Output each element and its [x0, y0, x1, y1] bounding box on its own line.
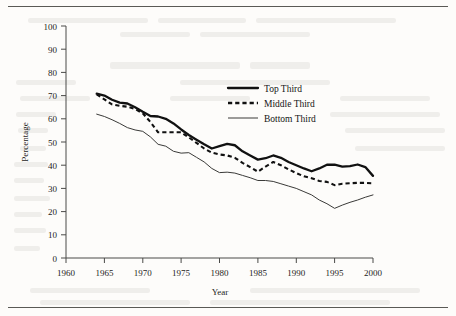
y-axis-ticks: [61, 26, 66, 258]
x-tick-label: 1965: [95, 268, 114, 278]
legend-label-middle-third: Middle Third: [264, 99, 315, 109]
series-line-top-third: [97, 94, 373, 176]
y-tick-label: 80: [48, 68, 58, 78]
y-tick-label: 30: [48, 184, 58, 194]
legend-label-top-third: Top Third: [264, 84, 302, 94]
y-tick-label: 90: [48, 45, 58, 55]
x-axis-ticks: [66, 258, 373, 263]
y-tick-label: 0: [53, 254, 58, 264]
y-tick-label: 40: [48, 161, 58, 171]
y-axis-title: Percentage: [20, 122, 30, 161]
x-tick-label: 1970: [134, 268, 153, 278]
y-axis: 100 90 80 70 60 50 40 30 20 10 0 Percent…: [20, 22, 66, 264]
x-tick-label: 1960: [57, 268, 76, 278]
y-tick-label: 100: [44, 22, 58, 32]
y-tick-label: 60: [48, 114, 58, 124]
series-line-bottom-third: [97, 114, 373, 208]
line-chart: 100 90 80 70 60 50 40 30 20 10 0 Percent…: [0, 0, 456, 316]
x-tick-label: 1975: [172, 268, 191, 278]
series-group: [97, 94, 373, 209]
x-tick-label: 1990: [287, 268, 306, 278]
x-axis-title: Year: [212, 287, 229, 297]
x-tick-label: 1985: [249, 268, 268, 278]
figure-page: 100 90 80 70 60 50 40 30 20 10 0 Percent…: [0, 0, 456, 316]
x-tick-label: 1980: [211, 268, 230, 278]
legend: Top Third Middle Third Bottom Third: [228, 84, 316, 124]
x-axis: 1960 1965 1970 1975 1980 1985 1990 1995 …: [57, 258, 383, 297]
y-tick-label: 20: [48, 207, 58, 217]
x-tick-label: 2000: [364, 268, 383, 278]
legend-label-bottom-third: Bottom Third: [264, 114, 316, 124]
y-tick-label: 70: [48, 91, 58, 101]
y-tick-label: 50: [48, 138, 58, 148]
x-tick-label: 1995: [326, 268, 345, 278]
y-tick-label: 10: [48, 230, 58, 240]
